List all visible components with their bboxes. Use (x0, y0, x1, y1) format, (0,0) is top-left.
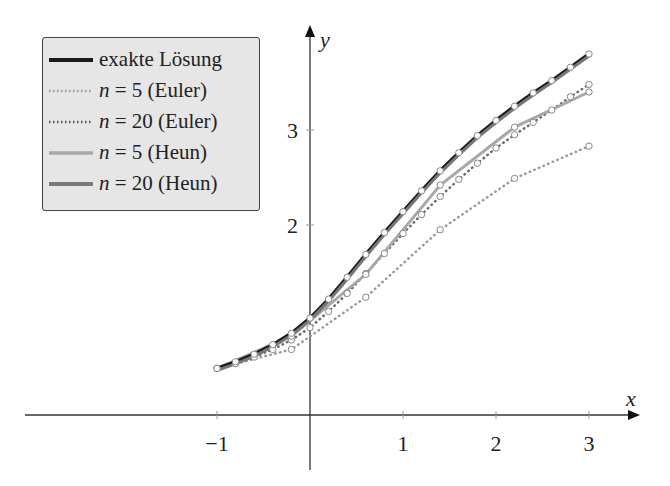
marker-n-20-euler- (549, 107, 555, 113)
marker-exakte-l-sung (251, 351, 257, 357)
marker-exakte-l-sung (400, 209, 406, 215)
legend-label: n = 20 (Euler) (99, 109, 218, 134)
marker-n-20-euler- (567, 94, 573, 100)
x-tick-label: 2 (491, 431, 502, 456)
legend-item-euler-5: n = 5 (Euler) (49, 75, 259, 106)
marker-exakte-l-sung (325, 296, 331, 302)
marker-exakte-l-sung (344, 274, 350, 280)
x-tick-label: 3 (584, 431, 595, 456)
marker-exakte-l-sung (214, 365, 220, 371)
x-tick-label: 1 (398, 431, 409, 456)
x-axis-label: x (625, 386, 636, 411)
marker-n-5-heun- (586, 89, 592, 95)
marker-n-20-euler- (586, 81, 592, 87)
marker-n-20-euler- (325, 308, 331, 314)
marker-n-5-euler- (437, 227, 443, 233)
marker-exakte-l-sung (288, 330, 294, 336)
legend-swatch-euler-20 (49, 116, 93, 128)
legend-swatch-heun-5 (49, 147, 93, 159)
marker-n-20-euler- (307, 324, 313, 330)
marker-exakte-l-sung (437, 168, 443, 174)
y-axis-arrow-icon (305, 25, 315, 37)
marker-n-5-euler- (363, 294, 369, 300)
marker-exakte-l-sung (530, 90, 536, 96)
marker-exakte-l-sung (586, 51, 592, 57)
marker-n-20-euler- (456, 176, 462, 182)
legend-label: n = 5 (Euler) (99, 78, 207, 103)
legend-item-heun-5: n = 5 (Heun) (49, 137, 259, 168)
x-tick-label: −1 (205, 431, 228, 456)
marker-exakte-l-sung (307, 315, 313, 321)
legend-item-exact: exakte Lösung (49, 44, 259, 75)
y-axis-label: y (318, 27, 330, 52)
marker-n-5-euler- (511, 175, 517, 181)
marker-exakte-l-sung (567, 64, 573, 70)
marker-n-5-heun- (511, 124, 517, 130)
legend-item-heun-20: n = 20 (Heun) (49, 168, 259, 199)
marker-n-5-euler- (586, 143, 592, 149)
legend-label: n = 20 (Heun) (99, 171, 218, 196)
marker-n-20-euler- (400, 230, 406, 236)
y-tick-label: 2 (287, 213, 298, 238)
marker-exakte-l-sung (381, 229, 387, 235)
marker-n-20-euler- (437, 193, 443, 199)
marker-exakte-l-sung (418, 188, 424, 194)
y-tick-label: 3 (287, 118, 298, 143)
marker-exakte-l-sung (474, 133, 480, 139)
marker-exakte-l-sung (363, 251, 369, 257)
marker-n-20-euler- (381, 250, 387, 256)
legend-swatch-heun-20 (49, 178, 93, 190)
x-axis-arrow-icon (628, 410, 640, 420)
legend-swatch-exact (49, 54, 93, 66)
legend-label: n = 5 (Heun) (99, 140, 207, 165)
legend-label: exakte Lösung (99, 47, 222, 72)
marker-n-20-euler- (511, 132, 517, 138)
marker-n-20-euler- (418, 211, 424, 217)
marker-n-5-euler- (288, 346, 294, 352)
marker-n-20-euler- (493, 145, 499, 151)
marker-n-20-euler- (344, 290, 350, 296)
marker-exakte-l-sung (549, 77, 555, 83)
marker-n-20-euler- (530, 119, 536, 125)
series-line-n-20-euler- (217, 84, 589, 368)
marker-exakte-l-sung (270, 342, 276, 348)
legend-swatch-euler-5 (49, 85, 93, 97)
marker-exakte-l-sung (511, 103, 517, 109)
marker-n-5-heun- (363, 271, 369, 277)
marker-exakte-l-sung (493, 117, 499, 123)
marker-exakte-l-sung (456, 150, 462, 156)
legend-item-euler-20: n = 20 (Euler) (49, 106, 259, 137)
chart-legend: exakte Lösung n = 5 (Euler) n = 20 (Eule… (42, 37, 260, 211)
marker-n-20-euler- (474, 160, 480, 166)
marker-n-5-heun- (437, 182, 443, 188)
series-line-n-5-euler- (217, 146, 589, 368)
marker-exakte-l-sung (232, 359, 238, 365)
